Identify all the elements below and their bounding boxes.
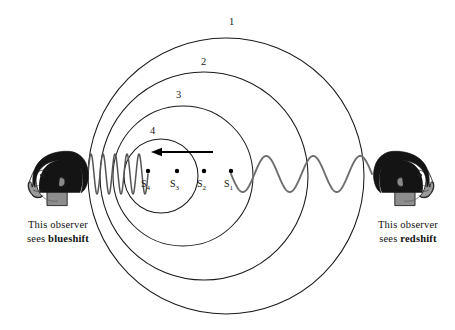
source-label-S4: S4	[141, 179, 150, 192]
wavefront-number-3: 3	[176, 90, 181, 101]
source-label-S1: S1	[224, 179, 233, 192]
observer-head-icon	[374, 151, 434, 205]
observer-left	[28, 151, 88, 205]
motion-arrow-head	[151, 148, 162, 156]
observer-right-shift-word: redshift	[400, 233, 436, 244]
source-label-S3: S3	[170, 179, 179, 192]
observer-right-caption-line1: This observer	[378, 219, 438, 230]
wavefront-circle-2	[100, 72, 308, 280]
source-dot-group	[146, 169, 233, 173]
observer-left-caption-line1: This observer	[28, 219, 88, 230]
observer-left-caption-line2-prefix: sees	[27, 233, 48, 244]
wavefront-number-1: 1	[229, 17, 234, 28]
source-label-subscript: 3	[176, 184, 180, 192]
wavefront-circle-1	[88, 38, 364, 314]
source-dot-S1	[229, 169, 233, 173]
source-dot-S3	[175, 169, 179, 173]
observer-left-shift-word: blueshift	[48, 233, 89, 244]
source-label-subscript: 4	[147, 184, 151, 192]
observer-right	[374, 151, 434, 205]
source-label-subscript: 1	[230, 184, 234, 192]
source-dot-S2	[202, 169, 206, 173]
source-label-S2: S2	[197, 179, 206, 192]
doppler-effect-figure: 1234 S4S3S2S1 This observer sees blueshi…	[0, 0, 455, 330]
compressed-wave-blueshift	[88, 154, 148, 194]
observer-right-caption: This observer sees redshift	[362, 218, 454, 246]
motion-arrow-group	[151, 148, 213, 156]
source-label-subscript: 2	[203, 184, 207, 192]
wavefront-number-4: 4	[150, 126, 155, 137]
wavefront-number-2: 2	[201, 57, 206, 68]
diagram-canvas	[0, 0, 455, 330]
wavefront-circle-group	[88, 38, 364, 314]
observer-head-icon	[28, 151, 88, 205]
observer-left-caption: This observer sees blueshift	[4, 218, 112, 246]
source-dot-S4	[146, 169, 150, 173]
observer-right-caption-line2-prefix: sees	[379, 233, 400, 244]
